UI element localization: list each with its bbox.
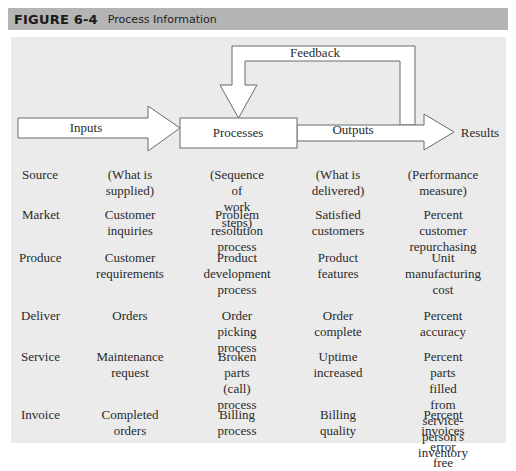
row-stage: Produce bbox=[19, 250, 62, 266]
row-input: Customer inquiries bbox=[105, 207, 156, 239]
row-input: Maintenance request bbox=[96, 349, 163, 381]
row-process: Product development process bbox=[203, 250, 270, 298]
row-output: (What is delivered) bbox=[312, 167, 365, 199]
results-label: Results bbox=[461, 125, 499, 141]
row-result: Percent invoices error free bbox=[421, 407, 464, 471]
row-result: Percent accuracy bbox=[420, 308, 466, 340]
outputs-arrow bbox=[297, 114, 454, 150]
row-output: Satisfied customers bbox=[312, 207, 365, 239]
row-input: (What is supplied) bbox=[106, 167, 154, 199]
row-result: (Performance measure) bbox=[408, 167, 479, 199]
row-stage: Deliver bbox=[21, 308, 60, 324]
row-stage: Market bbox=[22, 207, 60, 223]
row-process: Problem resolution process bbox=[211, 207, 263, 255]
row-result: Percent customer repurchasing bbox=[409, 207, 476, 255]
row-input: Customer requirements bbox=[96, 250, 164, 282]
row-input: Completed orders bbox=[101, 407, 158, 439]
row-output: Uptime increased bbox=[313, 349, 362, 381]
row-process: Billing process bbox=[218, 407, 257, 439]
row-stage: Invoice bbox=[21, 407, 60, 423]
processes-label: Processes bbox=[213, 125, 264, 141]
row-stage: Service bbox=[21, 349, 60, 365]
row-output: Product features bbox=[317, 250, 358, 282]
row-stage: Source bbox=[22, 167, 58, 183]
row-result: Unit manufacturing cost bbox=[405, 250, 481, 298]
row-output: Order complete bbox=[314, 308, 362, 340]
feedback-label: Feedback bbox=[290, 45, 340, 61]
outputs-label: Outputs bbox=[332, 122, 373, 138]
row-output: Billing quality bbox=[320, 407, 356, 439]
row-process: Broken parts (call) process bbox=[218, 349, 257, 413]
row-input: Orders bbox=[112, 308, 147, 324]
inputs-label: Inputs bbox=[70, 120, 103, 136]
